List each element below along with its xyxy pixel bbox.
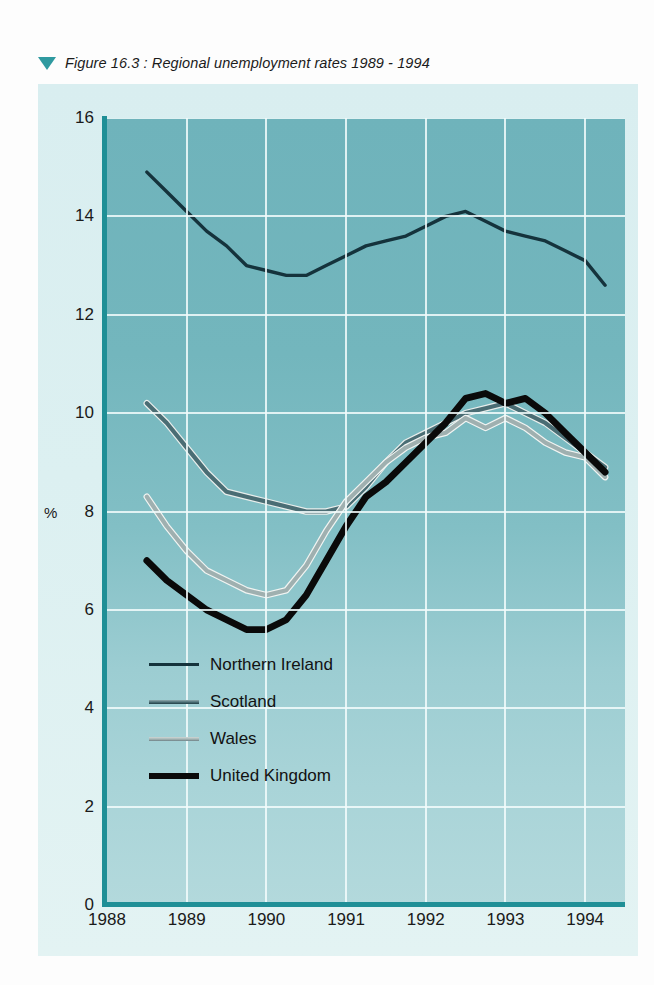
series-line-halo [147,418,605,595]
gridline-horizontal [107,806,625,808]
chart-figure: 0246810121416% 1988198919901991199219931… [38,84,638,956]
y-axis-tick-label: 16 [54,108,94,128]
x-axis-tick-label: 1992 [407,910,445,930]
line-sample-icon [148,773,200,779]
legend-label: Northern Ireland [200,655,333,675]
x-axis-tick-label: 1991 [327,910,365,930]
y-axis-tick-label: 12 [54,305,94,325]
x-axis-tick-label: 1994 [566,910,604,930]
series-line-scotland [147,403,605,511]
gridline-horizontal [107,215,625,217]
y-axis-tick-label: 10 [54,403,94,423]
gridline-horizontal [107,314,625,316]
gridline-horizontal [107,118,625,119]
x-axis-tick-label: 1990 [247,910,285,930]
y-axis-tick-label: 6 [54,600,94,620]
line-sample-icon [148,737,200,741]
legend-label: Scotland [200,692,276,712]
figure-caption: Figure 16.3 : Regional unemployment rate… [38,52,430,74]
series-line-northern-ireland [147,172,605,285]
line-sample-icon [148,663,200,666]
y-axis-tick-label: 14 [54,206,94,226]
x-axis-labels: 1988198919901991199219931994 [38,910,638,940]
x-axis-tick-label: 1988 [88,910,126,930]
line-sample-icon [148,700,200,704]
gridline-horizontal [107,412,625,414]
figure-page: Figure 16.3 : Regional unemployment rate… [0,0,654,985]
legend-item-wales: Wales [148,720,388,757]
y-axis-unit-label: % [44,503,57,520]
legend-item-united-kingdom: United Kingdom [148,757,388,794]
legend-label: United Kingdom [200,766,331,786]
y-axis-tick-label: 4 [54,698,94,718]
y-axis-tick-label: 8 [54,502,94,522]
figure-caption-text: Figure 16.3 : Regional unemployment rate… [65,55,430,71]
chart-legend: Northern Ireland Scotland Wales United K… [148,646,388,794]
gridline-vertical [504,118,506,905]
x-axis-tick-label: 1989 [168,910,206,930]
gridline-horizontal [107,511,625,513]
x-axis-line [102,902,625,907]
y-axis-labels: 0246810121416% [38,84,94,956]
legend-label: Wales [200,729,257,749]
y-axis-line [102,116,107,907]
gridline-vertical [584,118,586,905]
legend-item-scotland: Scotland [148,683,388,720]
x-axis-tick-label: 1993 [487,910,525,930]
y-axis-tick-label: 2 [54,797,94,817]
triangle-down-icon [38,57,56,70]
legend-item-northern-ireland: Northern Ireland [148,646,388,683]
series-line-wales [147,418,605,595]
gridline-vertical [425,118,427,905]
gridline-horizontal [107,609,625,611]
